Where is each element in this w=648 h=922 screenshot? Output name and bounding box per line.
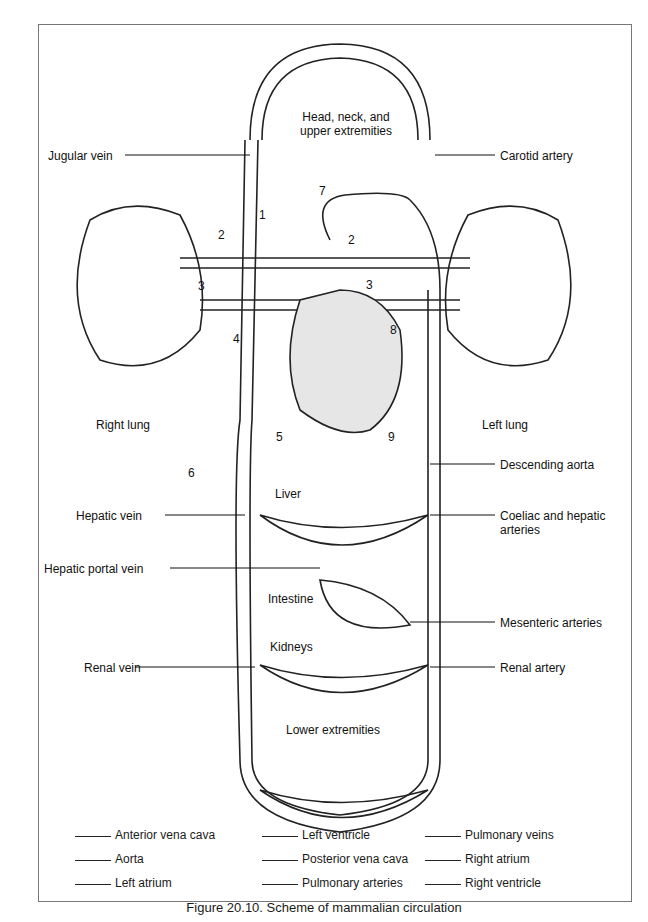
figure-caption: Figure 20.10. Scheme of mammalian circul…	[0, 900, 648, 915]
key-item: Pulmonary arteries	[262, 876, 403, 890]
label-carotid-artery: Carotid artery	[500, 149, 573, 163]
label-mesenteric-arteries: Mesenteric arteries	[500, 616, 602, 630]
key-item: Posterior vena cava	[262, 852, 408, 866]
number-7: 7	[319, 184, 326, 198]
label-renal-vein: Renal vein	[84, 661, 141, 675]
label-descending-aorta: Descending aorta	[500, 458, 594, 472]
key-item: Right atrium	[425, 852, 530, 866]
number-2-left: 2	[218, 228, 225, 242]
label-jugular-vein: Jugular vein	[48, 149, 113, 163]
label-lower-extremities: Lower extremities	[286, 723, 380, 737]
label-hepatic-portal-vein: Hepatic portal vein	[44, 562, 143, 576]
number-5: 5	[276, 430, 283, 444]
key-item: Aorta	[75, 852, 144, 866]
number-3-right: 3	[366, 278, 373, 292]
number-1: 1	[259, 208, 266, 222]
label-left-lung: Left lung	[482, 418, 528, 432]
label-hepatic-vein: Hepatic vein	[76, 509, 142, 523]
key-item: Left ventricle	[262, 828, 370, 842]
key-item: Right ventricle	[425, 876, 541, 890]
number-9: 9	[388, 430, 395, 444]
number-8: 8	[390, 323, 397, 337]
key-item: Left atrium	[75, 876, 172, 890]
number-4: 4	[233, 332, 240, 346]
key-item: Anterior vena cava	[75, 828, 215, 842]
key-item: Pulmonary veins	[425, 828, 554, 842]
label-right-lung: Right lung	[96, 418, 150, 432]
number-3-left: 3	[198, 279, 205, 293]
label-kidneys: Kidneys	[270, 640, 313, 654]
number-6: 6	[188, 466, 195, 480]
label-renal-artery: Renal artery	[500, 661, 565, 675]
number-2-right: 2	[348, 233, 355, 247]
label-coeliac-arteries: Coeliac and hepatic arteries	[500, 509, 605, 537]
label-intestine: Intestine	[268, 592, 313, 606]
label-head: Head, neck, and upper extremities	[300, 110, 392, 138]
label-liver: Liver	[275, 487, 301, 501]
